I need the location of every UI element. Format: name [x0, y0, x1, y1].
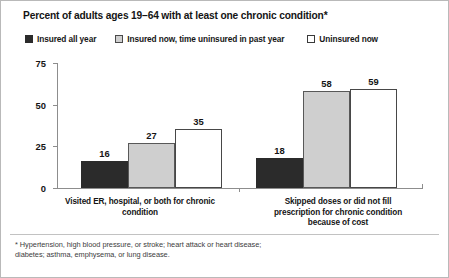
category-label-group0: Visited ER, hospital, or both for chroni… — [35, 197, 245, 218]
bar-group1-insured-all-year[interactable]: 18 — [256, 158, 303, 188]
bar-value-label: 18 — [274, 145, 284, 156]
legend-item-insured-now: Insured now, time uninsured in past year — [115, 34, 284, 44]
bar-group0-insured-now[interactable]: 27 — [128, 143, 175, 188]
y-tick-label-50: 50 — [36, 99, 46, 110]
chart-title: Percent of adults ages 19–64 with at lea… — [23, 10, 435, 21]
y-axis-spine — [57, 63, 58, 189]
y-tick-25: 25 — [53, 146, 57, 147]
bar-value-label: 35 — [193, 116, 203, 127]
bar-value-label: 16 — [99, 148, 109, 159]
legend-item-insured-all-year: Insured all year — [25, 34, 96, 44]
footnote-divider — [10, 234, 439, 235]
footnote-line: * Hypertension, high blood pressure, or … — [15, 240, 435, 250]
footnote: * Hypertension, high blood pressure, or … — [15, 240, 435, 260]
bar-group0-uninsured-now[interactable]: 35 — [175, 129, 222, 188]
category-label-line: because of cost — [233, 218, 443, 229]
y-tick-0: 0 — [53, 188, 57, 189]
category-label-group1: Skipped doses or did not fill prescripti… — [233, 197, 443, 229]
bar-value-label: 58 — [321, 78, 331, 89]
legend-label-uninsured-now: Uninsured now — [319, 34, 378, 44]
y-tick-label-75: 75 — [36, 58, 46, 69]
legend-label-insured-now: Insured now, time uninsured in past year — [127, 34, 284, 44]
legend-swatch-black-icon — [25, 35, 33, 43]
plot-area: 75 50 25 0 16 27 35 18 58 59 — [57, 63, 423, 189]
y-tick-50: 50 — [53, 105, 57, 106]
bar-group0-insured-all-year[interactable]: 16 — [81, 161, 128, 188]
x-axis-baseline — [57, 188, 423, 189]
legend-item-uninsured-now: Uninsured now — [307, 34, 378, 44]
category-label-line: Visited ER, hospital, or both for chroni… — [35, 197, 245, 208]
bar-value-label: 27 — [146, 130, 156, 141]
bar-value-label: 59 — [368, 76, 378, 87]
bar-group1-uninsured-now[interactable]: 59 — [350, 89, 397, 188]
legend-swatch-gray-icon — [115, 35, 123, 43]
x-axis-end-cap — [422, 184, 423, 188]
y-tick-75: 75 — [53, 63, 57, 64]
category-label-line: condition — [35, 208, 245, 219]
category-label-line: Skipped doses or did not fill — [233, 197, 443, 208]
category-label-line: prescription for chronic condition — [233, 208, 443, 219]
legend-swatch-white-icon — [307, 35, 315, 43]
chart-legend: Insured all year Insured now, time unins… — [25, 32, 431, 46]
x-axis-group-separator-tick — [239, 188, 240, 192]
chart-figure: Percent of adults ages 19–64 with at lea… — [0, 0, 449, 278]
footnote-line: diabetes; asthma, emphysema, or lung dis… — [15, 250, 435, 260]
y-tick-label-25: 25 — [36, 141, 46, 152]
y-tick-label-0: 0 — [41, 183, 46, 194]
legend-label-insured-all-year: Insured all year — [37, 34, 96, 44]
bar-group1-insured-now[interactable]: 58 — [303, 91, 350, 188]
